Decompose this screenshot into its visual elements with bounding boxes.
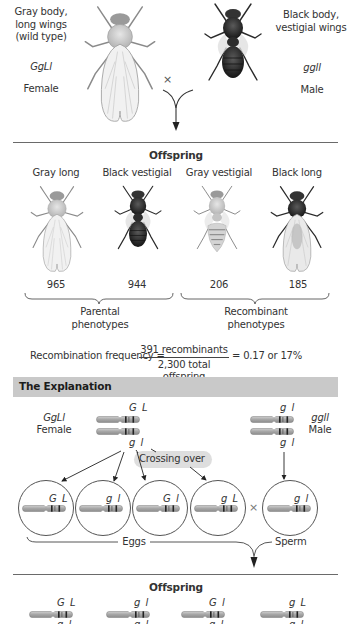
offspring-1-top-alleles: G L [57, 597, 77, 608]
offspring-3-chromosome-icon [181, 611, 225, 618]
offspring-4-bottom-alleles: g l [289, 619, 304, 624]
offspring-4-top-alleles: g L [289, 597, 307, 608]
offspring-4-chromosome-icon [260, 611, 304, 618]
offspring-3-bottom-alleles: g l [209, 619, 224, 624]
eggs-label: Eggs [118, 536, 150, 549]
offspring-2-chromosome-icon [106, 611, 150, 618]
divider [13, 574, 338, 575]
eggs-sperm-bracket-icon [0, 0, 352, 624]
offspring-2-bottom-alleles: g l [134, 619, 149, 624]
sperm-label: Sperm [275, 536, 315, 549]
offspring-1-chromosome-icon [29, 611, 73, 618]
offspring-2-top-alleles: g l [134, 597, 149, 608]
offspring-bottom-title: Offspring [0, 581, 352, 594]
offspring-3-top-alleles: G l [209, 597, 226, 608]
offspring-1-bottom-alleles: g l [57, 619, 72, 624]
